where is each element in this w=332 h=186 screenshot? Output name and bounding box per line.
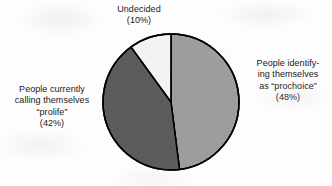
pie-label-prochoice-line1: People identify- (246, 58, 330, 69)
pie-chart-figure: Undecided (10%) People identify- ing the… (0, 0, 332, 186)
pie-label-prochoice-line3: as “prochoice” (246, 81, 330, 92)
pie-label-prolife-line2: calling themselves (2, 95, 102, 106)
pie-slice-prochoice (171, 34, 239, 169)
pie-label-undecided-line2: (10%) (96, 15, 182, 26)
pie-label-undecided-line1: Undecided (96, 4, 182, 15)
pie-label-prochoice-line2: ing themselves (246, 69, 330, 80)
pie-label-prolife-line4: (42%) (2, 118, 102, 129)
pie-label-undecided: Undecided (10%) (96, 4, 182, 27)
pie-label-prolife-line3: “prolife” (2, 107, 102, 118)
pie-label-prolife-line1: People currently (2, 84, 102, 95)
pie-label-prolife: People currently calling themselves “pro… (2, 84, 102, 130)
pie-label-prochoice: People identify- ing themselves as “proc… (246, 58, 330, 104)
pie-label-prochoice-line4: (48%) (246, 92, 330, 103)
